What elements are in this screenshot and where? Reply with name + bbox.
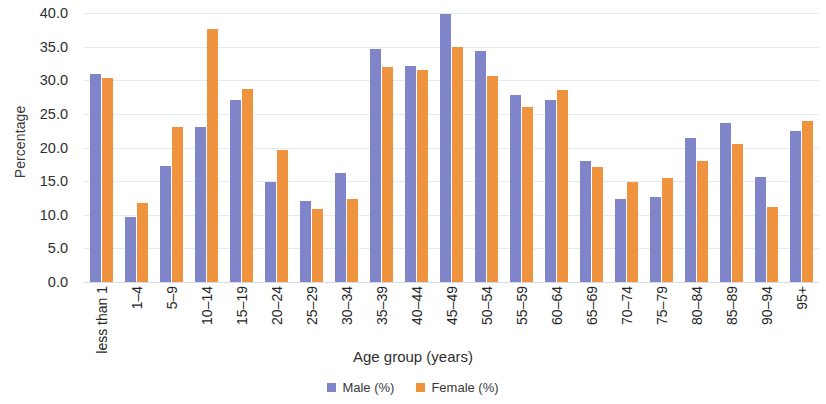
bar-group <box>784 13 819 282</box>
bar-male <box>720 123 731 282</box>
x-axis-tick-label: 10–14 <box>199 286 215 325</box>
bar-male <box>615 199 626 282</box>
x-axis-tick-label: 90–94 <box>759 286 775 325</box>
bar-female <box>277 150 288 282</box>
legend-label: Female (%) <box>431 380 498 395</box>
x-axis-title: Age group (years) <box>0 348 826 365</box>
bar-male <box>650 197 661 282</box>
bar-group <box>749 13 784 282</box>
y-axis-tick-label: 20.0 <box>40 140 68 156</box>
bar-female <box>662 178 673 282</box>
x-axis-tick: 25–29 <box>294 286 329 348</box>
bar-group <box>119 13 154 282</box>
x-axis-tick-label: 15–19 <box>234 286 250 325</box>
bar-female <box>207 29 218 282</box>
chart-legend: Male (%)Female (%) <box>0 380 826 395</box>
y-axis-tick-label: 10.0 <box>40 207 68 223</box>
x-axis-tick: 40–44 <box>399 286 434 348</box>
x-axis-tick-label: 55–59 <box>514 286 530 325</box>
x-axis-tick-label: 45–49 <box>444 286 460 325</box>
bar-male <box>370 49 381 282</box>
x-axis-tick-labels: less than 11–45–910–1415–1920–2425–2930–… <box>84 286 819 348</box>
bar-group <box>224 13 259 282</box>
plot-area <box>84 13 819 282</box>
legend-label: Male (%) <box>342 380 394 395</box>
y-axis-tick-label: 30.0 <box>40 72 68 88</box>
legend-item[interactable]: Female (%) <box>416 380 498 395</box>
bar-female <box>592 167 603 282</box>
bar-male <box>755 177 766 282</box>
y-axis-tick-label: 0.0 <box>48 274 68 290</box>
x-axis-tick: 55–59 <box>504 286 539 348</box>
bar-group <box>399 13 434 282</box>
bar-female <box>732 144 743 282</box>
x-axis-tick-label: 40–44 <box>409 286 425 325</box>
x-axis-tick-label: 30–34 <box>339 286 355 325</box>
y-axis-tick-label: 35.0 <box>40 39 68 55</box>
x-axis-tick: 50–54 <box>469 286 504 348</box>
x-axis-tick: 1–4 <box>119 286 154 348</box>
legend-item[interactable]: Male (%) <box>327 380 394 395</box>
bar-female <box>522 107 533 282</box>
x-axis-tick: less than 1 <box>84 286 119 348</box>
bar-female <box>382 67 393 282</box>
bar-female <box>102 78 113 282</box>
bar-female <box>802 121 813 282</box>
bar-group <box>469 13 504 282</box>
x-axis-tick-label: 5–9 <box>164 286 180 309</box>
bar-female <box>347 199 358 282</box>
bar-group <box>714 13 749 282</box>
x-axis-tick: 90–94 <box>749 286 784 348</box>
bar-group <box>434 13 469 282</box>
bar-male <box>405 66 416 282</box>
bar-group <box>189 13 224 282</box>
bar-male <box>580 161 591 282</box>
bar-female <box>417 70 428 283</box>
x-axis-tick-label: 80–84 <box>689 286 705 325</box>
bar-group <box>84 13 119 282</box>
bar-female <box>242 89 253 282</box>
x-axis-tick-label: less than 1 <box>94 286 110 354</box>
x-axis-tick-label: 95+ <box>794 286 810 310</box>
bar-male <box>230 100 241 282</box>
bar-male <box>545 100 556 282</box>
x-axis-tick-label: 20–24 <box>269 286 285 325</box>
y-axis-tick-label: 40.0 <box>40 5 68 21</box>
bar-chart: Percentage 40.035.030.025.020.015.010.05… <box>0 0 826 404</box>
y-axis-tick-label: 15.0 <box>40 173 68 189</box>
bar-group <box>609 13 644 282</box>
bar-female <box>487 76 498 282</box>
gridline <box>84 282 819 283</box>
bar-male <box>335 173 346 282</box>
bar-male <box>125 217 136 282</box>
bar-group <box>259 13 294 282</box>
x-axis-tick: 65–69 <box>574 286 609 348</box>
x-axis-tick: 10–14 <box>189 286 224 348</box>
bar-female <box>172 127 183 282</box>
bar-female <box>312 209 323 282</box>
x-axis-tick: 5–9 <box>154 286 189 348</box>
bar-male <box>195 127 206 282</box>
bar-female <box>767 207 778 282</box>
x-axis-tick: 15–19 <box>224 286 259 348</box>
x-axis-tick-label: 70–74 <box>619 286 635 325</box>
legend-swatch-icon <box>416 383 425 392</box>
legend-swatch-icon <box>327 383 336 392</box>
bar-female <box>557 90 568 282</box>
x-axis-tick-label: 1–4 <box>129 286 145 309</box>
bar-male <box>90 74 101 282</box>
bar-groups <box>84 13 819 282</box>
x-axis-tick-label: 25–29 <box>304 286 320 325</box>
x-axis-tick: 80–84 <box>679 286 714 348</box>
bar-male <box>510 95 521 282</box>
bar-group <box>539 13 574 282</box>
x-axis-tick: 60–64 <box>539 286 574 348</box>
x-axis-tick-label: 75–79 <box>654 286 670 325</box>
bar-female <box>452 47 463 282</box>
x-axis-tick-label: 85–89 <box>724 286 740 325</box>
x-axis-tick: 70–74 <box>609 286 644 348</box>
bar-female <box>137 203 148 282</box>
bar-group <box>294 13 329 282</box>
x-axis-tick: 75–79 <box>644 286 679 348</box>
x-axis-tick: 95+ <box>784 286 819 348</box>
